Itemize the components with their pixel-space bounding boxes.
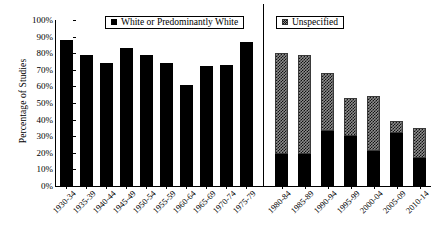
bar-1940-44[interactable] <box>100 63 113 186</box>
y-tick-label: 60% <box>37 82 54 91</box>
bar-slot <box>236 20 256 186</box>
y-tick-label: 50% <box>37 99 54 108</box>
bar-segment-white-or-predominantly-white <box>390 133 403 186</box>
x-tick-label: 1985-89 <box>289 189 315 215</box>
bar-slot <box>216 20 236 186</box>
bar-segment-white-or-predominantly-white <box>298 154 311 186</box>
bar-segment-unspecified <box>390 121 403 133</box>
bar-segment-unspecified <box>321 73 334 131</box>
bar-1985-89[interactable] <box>298 55 311 186</box>
plot-area <box>56 20 431 186</box>
legend-unspecified: Unspecified <box>276 16 344 29</box>
y-axis-tick-labels: 0%10%20%30%40%50%60%70%80%90%100% <box>20 14 53 192</box>
bar-segment-white-or-predominantly-white <box>160 63 173 186</box>
y-tick-label: 80% <box>37 49 54 58</box>
bar-slot <box>339 20 362 186</box>
x-tick-mark <box>186 186 187 189</box>
x-tick-label: 1990-94 <box>312 189 338 215</box>
bar-segment-white-or-predominantly-white <box>180 85 193 186</box>
x-tick-mark <box>66 186 67 189</box>
bar-2010-14[interactable] <box>413 128 426 186</box>
x-tick-mark <box>146 186 147 189</box>
bar-1950-54[interactable] <box>140 55 153 186</box>
x-tick-label: 2005-09 <box>381 189 407 215</box>
bar-segment-unspecified <box>413 128 426 158</box>
bar-segment-white-or-predominantly-white <box>100 63 113 186</box>
y-tick-label: 30% <box>37 132 54 141</box>
x-tick-mark <box>206 186 207 189</box>
bar-chart-figure: Percentage of Studies 0%10%20%30%40%50%6… <box>0 0 439 243</box>
legend-label-white: White or Predominantly White <box>121 17 238 27</box>
bar-slot <box>76 20 96 186</box>
left-panel <box>56 20 256 186</box>
bar-segment-white-or-predominantly-white <box>220 65 233 186</box>
bar-1990-94[interactable] <box>321 73 334 186</box>
bar-1945-49[interactable] <box>120 48 133 186</box>
bar-slot <box>56 20 76 186</box>
bar-segment-white-or-predominantly-white <box>60 40 73 186</box>
bar-segment-white-or-predominantly-white <box>120 48 133 186</box>
bar-slot <box>196 20 216 186</box>
legend-white-or-predominantly-white: White or Predominantly White <box>105 16 244 29</box>
bar-1955-59[interactable] <box>160 63 173 186</box>
x-tick-mark <box>351 186 352 189</box>
y-tick-label: 90% <box>37 33 54 42</box>
y-tick-label: 40% <box>37 116 54 125</box>
bar-slot <box>96 20 116 186</box>
bar-segment-white-or-predominantly-white <box>344 136 357 186</box>
right-panel <box>270 20 431 186</box>
bar-segment-white-or-predominantly-white <box>367 151 380 186</box>
legend-label-unspecified: Unspecified <box>292 17 338 27</box>
bar-slot <box>316 20 339 186</box>
bar-1975-79[interactable] <box>240 42 253 186</box>
bar-2000-04[interactable] <box>367 96 380 186</box>
bar-1965-69[interactable] <box>200 66 213 186</box>
y-tick-label: 20% <box>37 149 54 158</box>
left-panel-bars <box>56 20 256 186</box>
y-tick-label: 70% <box>37 66 54 75</box>
bar-segment-unspecified <box>367 96 380 151</box>
x-tick-mark <box>397 186 398 189</box>
x-tick-mark <box>106 186 107 189</box>
x-tick-mark <box>282 186 283 189</box>
x-tick-mark <box>246 186 247 189</box>
bar-1995-99[interactable] <box>344 98 357 186</box>
bar-segment-white-or-predominantly-white <box>200 66 213 186</box>
bar-1960-64[interactable] <box>180 85 193 186</box>
x-tick-label: 1980-84 <box>266 189 292 215</box>
bar-slot <box>176 20 196 186</box>
x-axis-tick-labels: 1930-341935-391940-441945-491950-541955-… <box>56 186 431 243</box>
bar-segment-white-or-predominantly-white <box>240 42 253 186</box>
bar-slot <box>293 20 316 186</box>
bar-segment-unspecified <box>298 55 311 155</box>
y-tick-label: 100% <box>32 16 53 25</box>
legend-swatch-black-icon <box>111 19 117 25</box>
bar-slot <box>270 20 293 186</box>
bar-slot <box>136 20 156 186</box>
x-tick-mark <box>126 186 127 189</box>
bar-slot <box>408 20 431 186</box>
x-tick-mark <box>166 186 167 189</box>
bar-1935-39[interactable] <box>80 55 93 186</box>
bar-segment-white-or-predominantly-white <box>140 55 153 186</box>
bar-1970-74[interactable] <box>220 65 233 186</box>
x-tick-mark <box>86 186 87 189</box>
bar-1930-34[interactable] <box>60 40 73 186</box>
bar-1980-84[interactable] <box>275 53 288 186</box>
panel-divider <box>263 4 264 187</box>
y-tick-label: 10% <box>37 165 54 174</box>
x-tick-mark <box>328 186 329 189</box>
legend-swatch-dotted-icon <box>282 19 288 25</box>
x-tick-mark <box>226 186 227 189</box>
x-tick-mark <box>374 186 375 189</box>
bar-segment-white-or-predominantly-white <box>80 55 93 186</box>
bar-slot <box>362 20 385 186</box>
bar-slot <box>116 20 136 186</box>
bar-segment-unspecified <box>344 98 357 136</box>
bar-segment-unspecified <box>275 53 288 154</box>
bar-2005-09[interactable] <box>390 121 403 186</box>
x-tick-label: 2010-14 <box>404 189 430 215</box>
x-tick-mark <box>305 186 306 189</box>
x-tick-label: 2000-04 <box>358 189 384 215</box>
bar-segment-white-or-predominantly-white <box>275 154 288 186</box>
